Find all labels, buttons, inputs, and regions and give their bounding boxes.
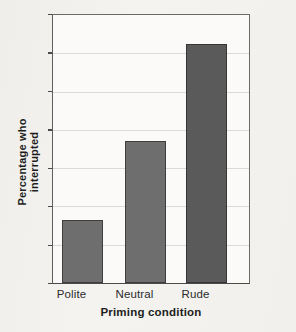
- x-tick-label-neutral: Neutral: [114, 288, 155, 300]
- x-axis-title: Priming condition: [52, 306, 250, 318]
- bar-polite: [62, 220, 103, 283]
- bar-rude: [186, 44, 227, 283]
- figure-bar-chart: 70 60 50 40 30 20 10 0 Percentage who in…: [0, 0, 296, 332]
- bar-neutral: [125, 141, 166, 283]
- x-tick-label-rude: Rude: [175, 288, 216, 300]
- x-tick-label-polite: Polite: [51, 288, 92, 300]
- plot-area: [52, 14, 250, 284]
- y-axis-title: Percentage who interrupted: [16, 87, 40, 237]
